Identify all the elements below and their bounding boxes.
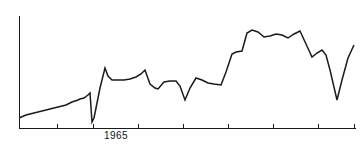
x-axis-ticks [58, 124, 355, 129]
line-chart: 1965 [0, 0, 364, 146]
chart-plot-area [0, 0, 364, 146]
data-series-line [19, 30, 354, 122]
axes-group [19, 16, 356, 129]
x-axis-tick-label-1965: 1965 [104, 130, 128, 141]
